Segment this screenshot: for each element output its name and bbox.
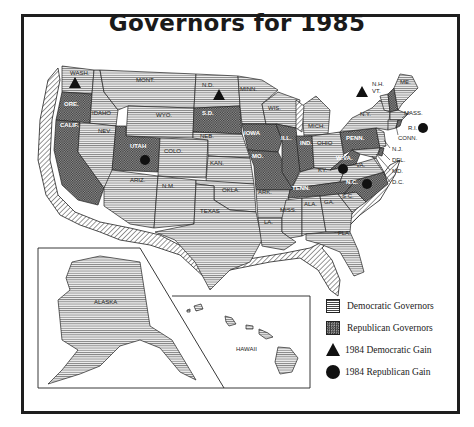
state-nm[interactable] — [154, 176, 196, 228]
label-hawaii: HAWAII — [236, 346, 257, 352]
label-minn: MINN. — [240, 86, 257, 92]
label-wyo: WYO. — [156, 112, 172, 118]
legend-item-republican: Republican Governors — [326, 318, 446, 337]
label-nh: N.H. — [372, 81, 384, 87]
label-md: MD. — [392, 168, 403, 174]
legend-item-rep-gain: 1984 Republican Gain — [326, 362, 446, 381]
state-alaska[interactable] — [48, 256, 196, 384]
label-mont: MONT. — [136, 77, 155, 83]
label-calif: CALIF. — [60, 122, 79, 128]
label-vt: VT. — [372, 88, 381, 94]
state-mont[interactable] — [100, 70, 196, 110]
state-miss[interactable] — [282, 198, 302, 238]
label-utah: UTAH — [130, 143, 146, 149]
triangle-icon — [326, 343, 340, 356]
legend-item-dem-gain: 1984 Democratic Gain — [326, 340, 446, 359]
label-la: LA. — [264, 219, 273, 225]
rep-gain-circle-utah — [140, 155, 150, 165]
legend-label: 1984 Democratic Gain — [345, 345, 432, 355]
label-idaho: IDAHO — [92, 110, 111, 116]
republican-swatch-icon — [326, 321, 340, 335]
rep-gain-circle-wva — [338, 164, 348, 174]
label-fla: FLA. — [338, 230, 351, 236]
label-sc: S.C. — [342, 193, 354, 199]
label-sd: S.D. — [202, 110, 214, 116]
label-nev: NEV. — [98, 128, 112, 134]
label-wash: WASH. — [70, 70, 90, 76]
label-ore: ORE. — [64, 101, 79, 107]
label-alaska: ALASKA — [94, 299, 117, 305]
label-texas: TEXAS — [200, 208, 220, 214]
label-ohio: OHIO — [317, 140, 333, 146]
label-nm: N.M. — [162, 183, 175, 189]
label-ga: GA. — [324, 199, 335, 205]
state-mich[interactable] — [302, 96, 330, 136]
legend: Democratic Governors Republican Governor… — [326, 296, 446, 384]
state-nd[interactable] — [194, 74, 240, 108]
label-kan: KAN. — [210, 160, 224, 166]
label-okla: OKLA. — [222, 187, 240, 193]
label-penn: PENN. — [346, 135, 365, 141]
label-nj: N.J. — [392, 146, 403, 152]
label-conn: CONN. — [398, 135, 418, 141]
label-va: VA. — [356, 162, 366, 168]
label-wva: W.VA. — [336, 155, 353, 161]
label-ark: ARK. — [258, 189, 272, 195]
label-neb: NEB. — [200, 133, 214, 139]
label-dc: D.C. — [392, 179, 404, 185]
democratic-swatch-icon — [326, 299, 340, 313]
label-mich: MICH. — [308, 123, 325, 129]
legend-label: Republican Governors — [347, 323, 433, 333]
legend-item-democratic: Democratic Governors — [326, 296, 446, 315]
label-mo: MO. — [252, 153, 264, 159]
state-hawaii[interactable] — [187, 304, 298, 374]
label-tenn: TENN. — [292, 185, 310, 191]
state-wyo[interactable] — [126, 106, 194, 138]
label-nc: N.C. — [346, 179, 358, 185]
dem-gain-triangle-vt — [356, 86, 368, 97]
state-colo[interactable] — [158, 138, 208, 178]
label-del: DEL. — [392, 157, 406, 163]
label-ala: ALA. — [304, 201, 317, 207]
label-ill: ILL. — [281, 135, 292, 141]
legend-label: Democratic Governors — [347, 301, 434, 311]
label-ky: KY. — [318, 167, 327, 173]
label-iowa: IOWA — [244, 130, 261, 136]
label-wis: WIS. — [268, 105, 281, 111]
label-nd: N.D. — [202, 82, 214, 88]
label-mass: MASS. — [404, 110, 423, 116]
legend-label: 1984 Republican Gain — [345, 367, 430, 377]
label-ind: IND. — [300, 140, 312, 146]
label-miss: MISS. — [280, 207, 297, 213]
rep-gain-circle-nc — [362, 179, 372, 189]
label-me: ME. — [400, 79, 411, 85]
label-ariz: ARIZ. — [130, 177, 146, 183]
label-ri: R.I. — [408, 125, 418, 131]
rep-gain-circle-ri — [418, 123, 428, 133]
state-sd[interactable] — [193, 106, 242, 134]
label-colo: COLO. — [164, 148, 183, 154]
state-ore[interactable] — [56, 92, 92, 124]
state-lake-michigan — [296, 100, 304, 132]
circle-icon — [326, 365, 340, 379]
label-ny: N.Y. — [360, 111, 371, 117]
state-iowa[interactable] — [242, 124, 282, 152]
